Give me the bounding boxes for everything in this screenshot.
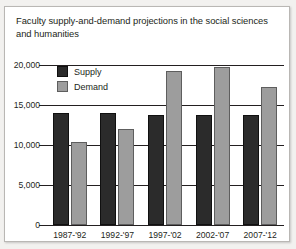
legend-label-supply: Supply	[74, 67, 102, 77]
y-axis-tick-label: 10,000	[14, 140, 40, 150]
x-axis-tick-label: 2002-'07	[196, 230, 229, 240]
bar-supply-2	[148, 115, 164, 225]
chart-legend: Supply Demand	[57, 66, 127, 96]
y-axis-tick-label: 5,000	[18, 180, 40, 190]
bar-demand-2	[166, 71, 182, 225]
legend-item-demand: Demand	[57, 81, 127, 92]
bar-supply-1	[100, 113, 116, 225]
y-tick-mark-20000	[39, 65, 46, 66]
y-tick-mark-15000	[39, 105, 46, 106]
bar-demand-4	[261, 87, 277, 225]
legend-item-supply: Supply	[57, 66, 127, 77]
legend-swatch-supply-icon	[57, 66, 68, 77]
bar-supply-4	[243, 115, 259, 225]
chart-figure: Faculty supply-and-demand projections in…	[4, 6, 290, 242]
legend-label-demand: Demand	[74, 82, 108, 92]
chart-title: Faculty supply-and-demand projections in…	[16, 15, 278, 40]
y-tick-mark-5000	[39, 185, 46, 186]
bar-supply-0	[53, 113, 69, 225]
x-axis-tick-label: 1997-'02	[148, 230, 181, 240]
x-axis-tick-label: 2007-'12	[244, 230, 277, 240]
bar-demand-0	[71, 142, 87, 225]
x-axis-tick-label: 1992-'97	[101, 230, 134, 240]
y-tick-mark-0	[39, 225, 46, 226]
gridline-15000	[46, 105, 284, 106]
bar-supply-3	[196, 115, 212, 225]
x-axis-labels: 1987-'921992-'971997-'022002-'072007-'12	[46, 230, 284, 246]
y-axis-tick-label: 20,000	[14, 60, 40, 70]
y-axis-tick-label: 15,000	[14, 100, 40, 110]
legend-swatch-demand-icon	[57, 81, 68, 92]
y-axis-labels: 20,00015,00010,0005,0000	[5, 65, 40, 225]
bar-demand-3	[214, 67, 230, 225]
x-axis-tick-label: 1987-'92	[53, 230, 86, 240]
bar-demand-1	[118, 129, 134, 225]
y-tick-mark-10000	[39, 145, 46, 146]
gridline-0	[46, 225, 284, 226]
